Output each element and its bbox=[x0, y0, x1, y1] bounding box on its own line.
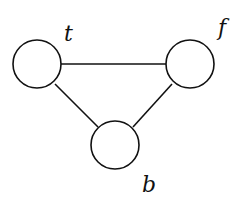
edge-t-b bbox=[55, 84, 98, 127]
node-label-t: t bbox=[64, 21, 73, 46]
graph-diagram: t f b bbox=[0, 0, 244, 205]
node-label-f: f bbox=[216, 15, 230, 40]
edge-f-b bbox=[133, 84, 172, 127]
node-t bbox=[13, 40, 61, 88]
node-label-b: b bbox=[142, 172, 156, 197]
node-b bbox=[91, 121, 139, 169]
node-f bbox=[166, 40, 214, 88]
